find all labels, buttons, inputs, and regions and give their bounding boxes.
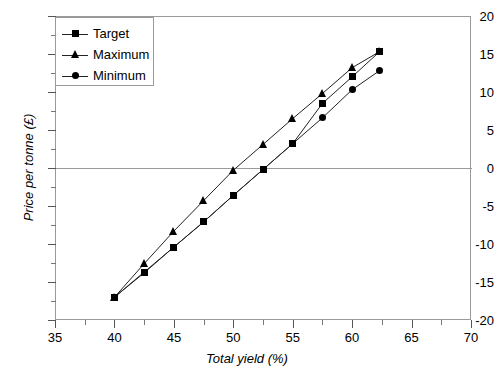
legend-label-minimum: Minimum	[93, 69, 146, 82]
legend-label-target: Target	[93, 27, 129, 40]
square-marker-icon	[72, 30, 79, 37]
circle-marker-icon	[72, 72, 79, 79]
legend-sample-triangle	[62, 49, 88, 61]
legend-item-minimum: Minimum	[56, 65, 153, 86]
legend-item-maximum: Maximum	[56, 44, 153, 65]
triangle-marker-icon	[71, 50, 79, 58]
legend-sample-square	[62, 28, 88, 40]
chart-figure: -20-15-10-5051015203540455055606570 Targ…	[0, 0, 494, 373]
legend-label-maximum: Maximum	[93, 48, 149, 61]
series-line-target	[114, 52, 379, 297]
legend-item-target: Target	[56, 23, 153, 44]
legend-sample-circle	[62, 70, 88, 82]
y-axis-title: Price per tonne (£)	[21, 78, 36, 258]
chart-legend: Target Maximum Minimum	[55, 17, 154, 86]
x-axis-title: Total yield (%)	[0, 351, 494, 366]
